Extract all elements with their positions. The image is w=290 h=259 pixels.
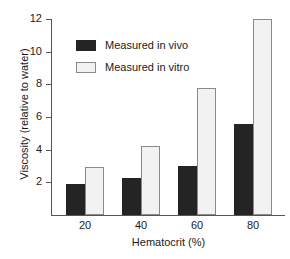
x-axis-tick-label: 40 <box>121 220 161 231</box>
bar-60-vitro <box>197 88 216 215</box>
x-axis-tick-label: 60 <box>177 220 217 231</box>
bar-20-vitro <box>85 167 104 215</box>
bar-chart-figure: 24681012 20406080 Measured in vivo Measu… <box>0 0 290 259</box>
y-axis-title: Viscosity (relative to water) <box>18 24 30 204</box>
legend-label-vitro: Measured in vitro <box>105 61 189 73</box>
legend-swatch-vitro-icon <box>76 62 96 73</box>
legend-label-vivo: Measured in vivo <box>105 39 188 51</box>
x-axis-tick-label: 80 <box>233 220 273 231</box>
legend-swatch-vivo-icon <box>76 40 96 51</box>
x-axis-title: Hematocrit (%) <box>52 236 285 248</box>
legend: Measured in vivo Measured in vitro <box>76 36 189 80</box>
bar-20-vivo <box>66 184 85 215</box>
y-axis-tick-label: 12 <box>14 13 42 24</box>
x-axis-line <box>52 215 285 216</box>
bar-80-vivo <box>234 124 253 215</box>
bar-60-vivo <box>178 166 197 215</box>
bar-40-vitro <box>141 146 160 215</box>
bar-80-vitro <box>253 19 272 215</box>
legend-item-vitro: Measured in vitro <box>76 58 189 76</box>
x-axis-tick-label: 20 <box>65 220 105 231</box>
legend-item-vivo: Measured in vivo <box>76 36 189 54</box>
bar-40-vivo <box>122 178 141 215</box>
